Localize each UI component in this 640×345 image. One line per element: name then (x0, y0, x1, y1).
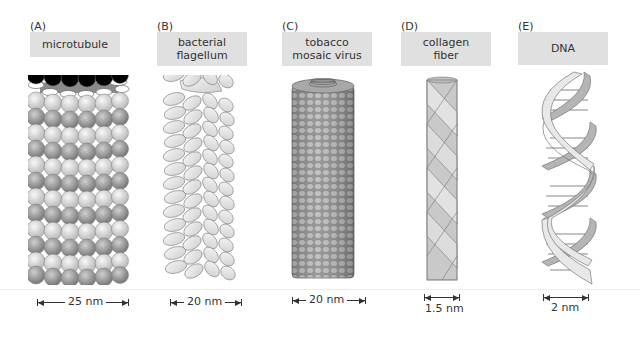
panel-label: bacterial flagellum (157, 32, 247, 66)
label-line: mosaic virus (282, 49, 372, 62)
label-line: collagen (401, 36, 491, 49)
panel-label: tobacco mosaic virus (282, 32, 372, 66)
collagen-fiber-illustration (424, 74, 460, 284)
tobacco-mosaic-virus-illustration (290, 78, 356, 283)
scale-bar: 20 nm (292, 294, 366, 308)
label-line: tobacco (282, 36, 372, 49)
label-line: bacterial (157, 36, 247, 49)
scale-bar: 2 nm (543, 293, 589, 319)
scale-label: 20 nm (306, 293, 347, 306)
scale-bar: 20 nm (170, 296, 242, 310)
panel-label: collagen fiber (401, 32, 491, 66)
scale-label: 20 nm (184, 295, 225, 308)
label-line: flagellum (157, 49, 247, 62)
scale-bar: 1.5 nm (424, 293, 460, 319)
dna-double-helix-illustration (538, 70, 598, 290)
scale-label: 1.5 nm (422, 302, 467, 315)
panel-label: DNA (518, 32, 608, 65)
scale-label: 2 nm (548, 301, 582, 314)
panel-dna: (E) DNA 2 nm (0, 0, 110, 345)
bacterial-flagellum-illustration (160, 75, 240, 285)
baseline-divider (0, 289, 640, 290)
label-line: fiber (401, 49, 491, 62)
